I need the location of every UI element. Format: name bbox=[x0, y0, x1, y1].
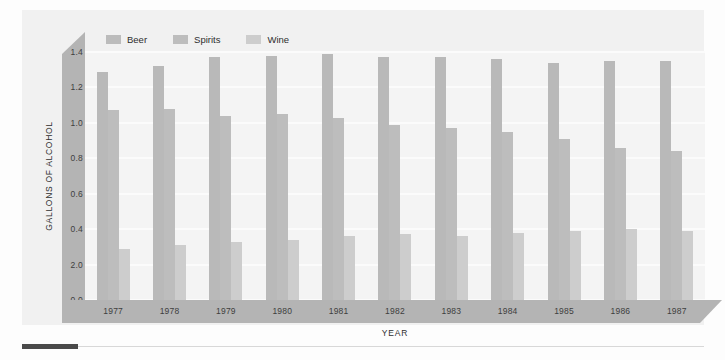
footer-rule-light bbox=[78, 346, 704, 347]
legend-item-wine: Wine bbox=[246, 34, 289, 45]
bar-spirits-1986 bbox=[615, 148, 626, 300]
bar-spirits-1977 bbox=[108, 110, 119, 300]
bar-wine-1983 bbox=[457, 236, 468, 300]
y-axis-tick-labels: 1.41.21.00.80.60.42.00.0 bbox=[62, 32, 85, 300]
bar-beer-1985 bbox=[548, 63, 559, 300]
bar-spirits-1979 bbox=[220, 116, 231, 300]
y-axis-tick-label: 0.6 bbox=[71, 189, 83, 199]
bar-wine-1981 bbox=[344, 236, 355, 300]
bar-group bbox=[536, 52, 592, 300]
x-axis-tick-label: 1982 bbox=[367, 300, 423, 323]
bar-wine-1982 bbox=[400, 234, 411, 300]
plot-area bbox=[85, 52, 705, 300]
y-axis-title-text: GALLONS OF ALCOHOL bbox=[44, 121, 54, 230]
legend-label-wine: Wine bbox=[267, 34, 289, 45]
bar-beer-1986 bbox=[604, 61, 615, 300]
bar-group bbox=[592, 52, 648, 300]
bar-group bbox=[649, 52, 705, 300]
bar-spirits-1983 bbox=[446, 128, 457, 300]
legend-label-beer: Beer bbox=[127, 34, 147, 45]
y-axis-tick-label: 0.8 bbox=[71, 153, 83, 163]
chart-panel: Beer Spirits Wine GALLONS OF ALCOHOL 1.4… bbox=[22, 10, 704, 325]
bar-spirits-1982 bbox=[389, 125, 400, 300]
x-axis-tick-label: 1977 bbox=[85, 300, 141, 323]
bar-group bbox=[85, 52, 141, 300]
x-axis-tick-labels: 1977197819791980198119821983198419851986… bbox=[85, 300, 705, 323]
x-axis-tick-label: 1981 bbox=[310, 300, 366, 323]
legend-item-spirits: Spirits bbox=[173, 34, 220, 45]
bar-spirits-1984 bbox=[502, 132, 513, 300]
bar-beer-1979 bbox=[209, 57, 220, 300]
x-axis-tick-label: 1980 bbox=[254, 300, 310, 323]
legend-label-spirits: Spirits bbox=[194, 34, 220, 45]
bar-spirits-1978 bbox=[164, 109, 175, 300]
x-axis-tick-label: 1978 bbox=[141, 300, 197, 323]
bar-spirits-1987 bbox=[671, 151, 682, 300]
bar-wine-1986 bbox=[626, 229, 637, 300]
y-axis-tick-label: 1.2 bbox=[71, 82, 83, 92]
bar-wine-1978 bbox=[175, 245, 186, 300]
x-axis-tick-label: 1987 bbox=[649, 300, 705, 323]
bar-beer-1981 bbox=[322, 54, 333, 300]
bar-wine-1979 bbox=[231, 242, 242, 300]
bar-spirits-1985 bbox=[559, 139, 570, 300]
bar-spirits-1980 bbox=[277, 114, 288, 300]
bar-beer-1987 bbox=[660, 61, 671, 300]
x-axis-tick-label: 1983 bbox=[423, 300, 479, 323]
x-axis-tick-label: 1979 bbox=[198, 300, 254, 323]
footer-rule-dark bbox=[22, 344, 78, 349]
bar-wine-1984 bbox=[513, 233, 524, 300]
bar-group bbox=[198, 52, 254, 300]
bar-group bbox=[367, 52, 423, 300]
bar-beer-1977 bbox=[97, 72, 108, 301]
y-axis-tick-label: 1.0 bbox=[71, 118, 83, 128]
bar-beer-1978 bbox=[153, 66, 164, 300]
y-axis-title: GALLONS OF ALCOHOL bbox=[40, 52, 58, 300]
legend-swatch-beer bbox=[106, 35, 121, 44]
bar-group bbox=[310, 52, 366, 300]
x-axis-tick-label: 1986 bbox=[592, 300, 648, 323]
bar-spirits-1981 bbox=[333, 118, 344, 300]
bar-wine-1977 bbox=[119, 249, 130, 300]
chart-legend: Beer Spirits Wine bbox=[106, 34, 289, 45]
x-axis-tick-label: 1985 bbox=[536, 300, 592, 323]
bar-beer-1980 bbox=[266, 56, 277, 300]
bar-wine-1985 bbox=[570, 231, 581, 300]
x-axis-title: YEAR bbox=[85, 328, 705, 338]
bar-group bbox=[480, 52, 536, 300]
bar-group bbox=[423, 52, 479, 300]
bar-layer bbox=[85, 52, 705, 300]
y-axis-tick-label: 1.4 bbox=[71, 47, 83, 57]
y-axis-tick-label: 0.4 bbox=[71, 224, 83, 234]
bar-wine-1980 bbox=[288, 240, 299, 300]
chart-figure: Beer Spirits Wine GALLONS OF ALCOHOL 1.4… bbox=[0, 0, 725, 360]
bar-group bbox=[254, 52, 310, 300]
bar-beer-1984 bbox=[491, 59, 502, 300]
bar-beer-1983 bbox=[435, 57, 446, 300]
bar-beer-1982 bbox=[378, 57, 389, 300]
bar-wine-1987 bbox=[682, 231, 693, 300]
legend-item-beer: Beer bbox=[106, 34, 147, 45]
y-axis-tick-label: 2.0 bbox=[71, 260, 83, 270]
legend-swatch-wine bbox=[246, 35, 261, 44]
legend-swatch-spirits bbox=[173, 35, 188, 44]
x-axis-tick-label: 1984 bbox=[480, 300, 536, 323]
bar-group bbox=[141, 52, 197, 300]
